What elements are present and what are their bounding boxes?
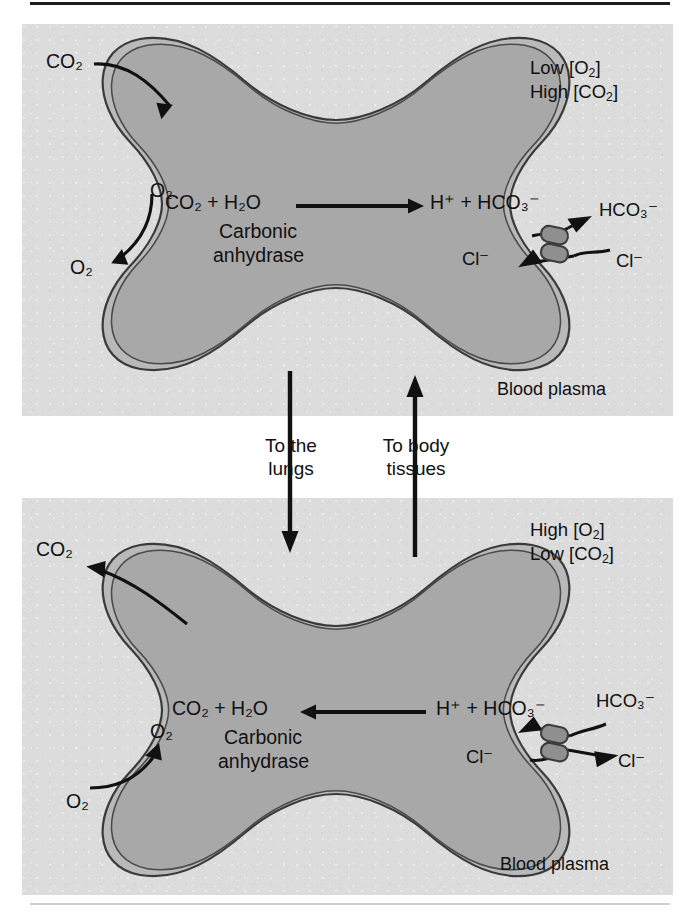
to-body-tissues-label: To bodytissues	[370, 434, 462, 480]
to-lungs-label: To thelungs	[246, 434, 336, 480]
figure-canvas: Low [O2] High [CO2] CO₂ O₂ O₂ CO₂ + H₂O …	[0, 0, 694, 913]
flow-arrows-layer	[0, 0, 694, 913]
